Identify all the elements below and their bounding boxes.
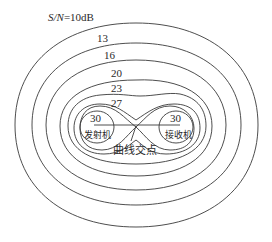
- label-receiver-value: 30: [170, 112, 182, 124]
- intersection-leader-line: [131, 126, 136, 141]
- label-transmitter: 发射机: [84, 129, 111, 140]
- snr-contour-diagram: S/N=10dB 13 16 20 23 27 30 发射机 30 接收机 曲线…: [0, 0, 272, 242]
- label-13db: 13: [97, 32, 109, 44]
- contour-20db: [60, 80, 212, 176]
- label-23db: 23: [111, 82, 123, 94]
- label-snr-10db: S/N=10dB: [48, 11, 94, 23]
- label-transmitter-value: 30: [90, 112, 102, 124]
- label-16db: 16: [104, 49, 116, 61]
- label-receiver: 接收机: [165, 129, 192, 140]
- label-20db: 20: [111, 67, 123, 79]
- label-27db: 27: [111, 97, 123, 109]
- label-intersection: 曲线交点: [113, 143, 157, 156]
- contour-13db: [32, 43, 241, 205]
